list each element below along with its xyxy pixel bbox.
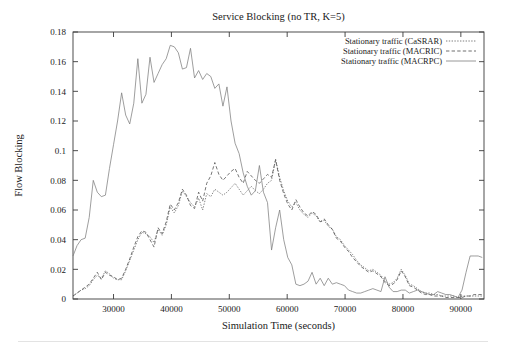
y-tick-label: 0.02 [50,265,66,275]
legend-label-1: Stationary traffic (MACRIC) [343,46,442,56]
x-tick-label: 50000 [218,304,241,314]
y-tick-label: 0.16 [50,57,66,67]
series-line-0 [73,160,482,298]
y-tick-label: 0.1 [55,146,66,156]
y-tick-label: 0.08 [50,176,66,186]
footer-divider [18,341,488,342]
plot-frame [73,32,484,299]
y-tick-label: 0 [62,294,67,304]
x-axis-label: Simulation Time (seconds) [222,320,336,332]
x-tick-label: 90000 [450,304,473,314]
x-tick-label: 70000 [334,304,357,314]
legend-label-2: Stationary traffic (MACRPC) [341,56,442,66]
legend-label-0: Stationary traffic (CaSRAR) [345,36,442,46]
y-tick-label: 0.14 [50,87,66,97]
x-tick-label: 30000 [102,304,125,314]
x-tick-label: 80000 [392,304,415,314]
chart-title: Service Blocking (no TR, K=5) [212,11,345,23]
y-tick-label: 0.06 [50,205,66,215]
x-tick-label: 40000 [160,304,183,314]
y-tick-label: 0.04 [50,235,66,245]
x-tick-label: 60000 [276,304,299,314]
chart-figure: Service Blocking (no TR, K=5)00.020.040.… [0,0,506,349]
y-tick-label: 0.12 [50,116,66,126]
y-tick-label: 0.18 [50,27,66,37]
chart-canvas: Service Blocking (no TR, K=5)00.020.040.… [0,0,506,349]
y-axis-label: Flow Blocking [13,133,24,196]
series-line-2 [73,45,482,297]
series-line-1 [73,160,482,298]
